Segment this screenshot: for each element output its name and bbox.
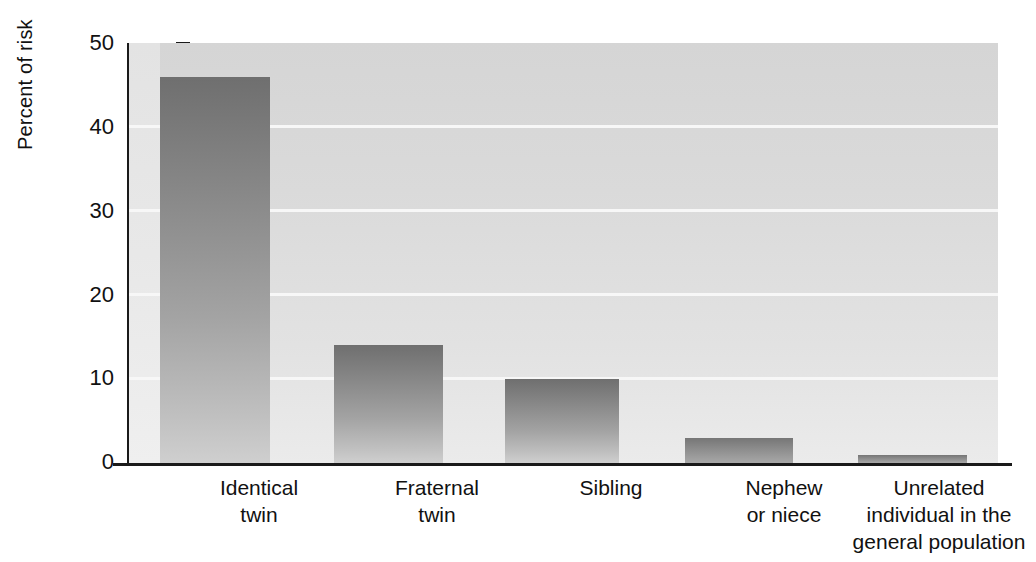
y-tick-label-10: 10 [68,367,114,389]
bar-unrelated [858,455,967,463]
bar-nephew-or-niece [685,438,793,463]
bar-fraternal-twin [334,345,443,463]
x-label-line-2: twin [159,501,359,528]
x-axis-line [113,463,1012,466]
y-axis-ticks: 50 40 30 20 10 0 [62,0,114,562]
x-label-line-3: general population [809,528,1036,555]
y-tick-label-40: 40 [68,116,114,138]
bar-identical-twin [160,77,270,463]
x-tick-label-unrelated: Unrelated individual in the general popu… [809,474,1036,555]
y-tick-label-30: 30 [68,200,114,222]
x-label-line-2: individual in the [809,501,1036,528]
x-label-line-2: twin [337,501,537,528]
x-label-line-1: Fraternal [337,474,537,501]
y-tick-label-20: 20 [68,284,114,306]
plot-left-strip [129,43,160,463]
x-tick-label-sibling: Sibling [511,474,711,501]
x-label-line-1: Unrelated [809,474,1036,501]
bar-sibling [505,379,619,463]
y-tick-label-50: 50 [68,32,114,54]
x-label-line-1: Sibling [511,474,711,501]
x-axis-labels: Identical twin Fraternal twin Sibling Ne… [129,474,998,562]
y-axis-title: Percent of risk [14,0,44,150]
y-tick-label-0: 0 [68,451,114,473]
plot-area [129,43,998,463]
x-tick-label-identical-twin: Identical twin [159,474,359,528]
x-label-line-1: Identical [159,474,359,501]
x-tick-label-fraternal-twin: Fraternal twin [337,474,537,528]
bar-chart-figure: Percent of risk 50 40 30 20 10 0 Identic… [0,0,1036,562]
